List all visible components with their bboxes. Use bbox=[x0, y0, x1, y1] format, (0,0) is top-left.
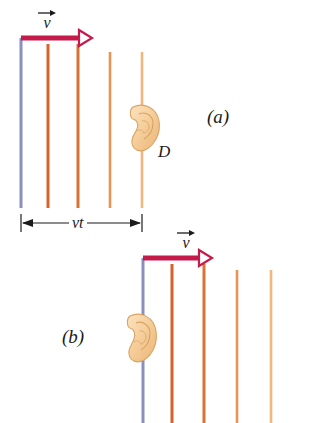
figure-canvas: v v (a) D (b) vt bbox=[0, 0, 329, 423]
detector-label-d: D bbox=[158, 143, 170, 160]
vt-arrowhead-left bbox=[22, 219, 33, 227]
velocity-vector-label-b: v bbox=[175, 228, 197, 249]
velocity-vector-label-a: v bbox=[36, 8, 58, 29]
panel-b-wavefronts bbox=[143, 258, 271, 423]
vt-dimension-label: vt bbox=[69, 214, 87, 232]
panel-a-wavefronts bbox=[21, 38, 142, 208]
vector-arrow-overbar-icon bbox=[36, 8, 58, 17]
panel-label-a: (a) bbox=[207, 107, 229, 126]
panel-b-velocity-arrow bbox=[143, 250, 212, 266]
vector-arrow-overbar-icon bbox=[175, 228, 197, 237]
velocity-arrow-head bbox=[79, 30, 92, 46]
panel-a-ear-icon bbox=[130, 105, 159, 151]
velocity-symbol: v bbox=[36, 17, 58, 29]
panel-a-velocity-arrow bbox=[21, 30, 92, 46]
figure-svg bbox=[0, 0, 329, 423]
velocity-symbol: v bbox=[175, 237, 197, 249]
panel-label-b: (b) bbox=[62, 327, 84, 346]
vt-arrowhead-right bbox=[130, 219, 141, 227]
panel-b-ear-icon bbox=[127, 314, 156, 362]
velocity-arrow-head bbox=[199, 250, 212, 266]
